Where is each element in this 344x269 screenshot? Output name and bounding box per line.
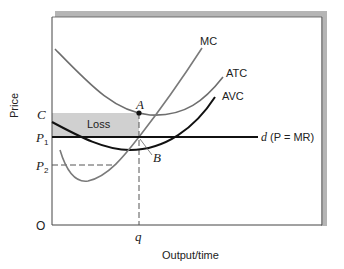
mc-label: MC: [200, 36, 217, 47]
p2-label: P2: [36, 159, 48, 175]
point-a-label: A: [136, 98, 144, 111]
point-b-label: B: [153, 151, 161, 164]
loss-label: Loss: [87, 119, 110, 130]
output-axis-label: Output/time: [162, 250, 219, 261]
q-label: q: [135, 230, 142, 243]
c-label: C: [37, 108, 46, 121]
avc-label: AVC: [222, 91, 244, 102]
origin-label: O: [36, 220, 45, 232]
p1-label: P1: [36, 131, 48, 147]
demand-label: d (P = MR): [261, 131, 314, 143]
atc-label: ATC: [226, 68, 247, 79]
price-axis-label: Price: [9, 93, 20, 118]
frame-shadow-top: [55, 11, 327, 17]
